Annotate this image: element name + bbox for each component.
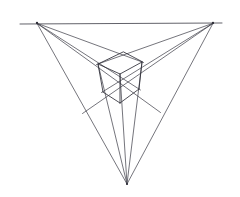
perspective-drawing: [0, 0, 240, 197]
cube-top-face-edges: [98, 52, 142, 74]
right-vp-to-bottom-left-line: [102, 23, 214, 92]
cube-bottom-right-edge: [120, 89, 139, 103]
bottom-vp-to-top-left-line: [98, 64, 127, 184]
cube-left-vertical-edge: [98, 64, 103, 92]
left-vanishing-point-marker: [36, 22, 38, 24]
horizon-group: [20, 23, 222, 24]
bottom-vanishing-point-marker: [126, 183, 128, 185]
left-vp-construction-group: [37, 23, 161, 184]
left-vp-to-bottom-right-line: [37, 23, 141, 90]
vanishing-point-markers: [36, 22, 214, 185]
horizon-line: [20, 23, 222, 24]
left-vp-to-top-right-line: [37, 23, 144, 62]
right-vanishing-point-marker: [212, 22, 214, 24]
bottom-vp-to-top-front-line: [120, 74, 127, 184]
perspective-diagram-canvas: Three-Point Perspective Cube Constructio…: [0, 0, 240, 197]
left-vp-to-bottom-vp-line: [37, 23, 127, 184]
right-vp-to-lower-left-far-line: [83, 23, 214, 113]
right-vp-to-bottom-vp-line: [127, 23, 213, 184]
cube-right-vertical-edge: [139, 62, 142, 89]
right-vp-to-top-left-line: [97, 23, 214, 64]
